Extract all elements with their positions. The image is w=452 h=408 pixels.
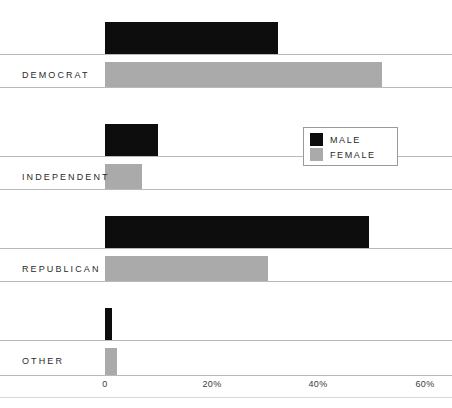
x-axis-line-bottom bbox=[0, 397, 452, 398]
gridline-other-male bbox=[0, 340, 452, 341]
gridline-democrat-female bbox=[0, 87, 452, 88]
bar-democrat-male bbox=[105, 22, 278, 54]
category-group-democrat: DEMOCRAT bbox=[0, 0, 452, 102]
gridline-independent-female bbox=[0, 189, 452, 190]
legend-label-male: MALE bbox=[330, 135, 361, 145]
bar-independent-female bbox=[105, 164, 142, 189]
category-label-democrat: DEMOCRAT bbox=[22, 70, 90, 80]
gridline-republican-male bbox=[0, 248, 452, 249]
category-group-republican: REPUBLICAN bbox=[0, 194, 452, 296]
x-tick-label-40: 40% bbox=[308, 379, 327, 389]
bar-republican-male bbox=[105, 216, 369, 248]
legend-swatch-male-icon bbox=[310, 133, 323, 146]
gridline-democrat-male bbox=[0, 54, 452, 55]
bar-democrat-female bbox=[105, 62, 382, 87]
legend-label-female: FEMALE bbox=[330, 150, 376, 160]
bar-republican-female bbox=[105, 256, 268, 281]
bar-other-female bbox=[105, 348, 117, 375]
x-tick-label-0: 0 bbox=[102, 379, 107, 389]
legend-swatch-female-icon bbox=[310, 148, 323, 161]
category-label-republican: REPUBLICAN bbox=[22, 264, 101, 274]
legend: MALE FEMALE bbox=[303, 127, 398, 166]
bar-chart: DEMOCRAT INDEPENDENT REPUBLICAN OTHER MA… bbox=[0, 0, 452, 408]
gridline-republican-female bbox=[0, 281, 452, 282]
legend-item-female: FEMALE bbox=[310, 147, 397, 162]
category-label-independent: INDEPENDENT bbox=[22, 172, 110, 182]
category-label-other: OTHER bbox=[22, 356, 64, 366]
x-tick-label-20: 20% bbox=[202, 379, 221, 389]
x-axis-line-top bbox=[0, 375, 452, 376]
category-group-other: OTHER bbox=[0, 286, 452, 388]
x-axis: 0 20% 40% 60% bbox=[0, 375, 452, 408]
x-tick-label-60: 60% bbox=[415, 379, 434, 389]
bar-independent-male bbox=[105, 124, 158, 156]
bar-other-male bbox=[105, 308, 112, 340]
legend-item-male: MALE bbox=[310, 132, 397, 147]
